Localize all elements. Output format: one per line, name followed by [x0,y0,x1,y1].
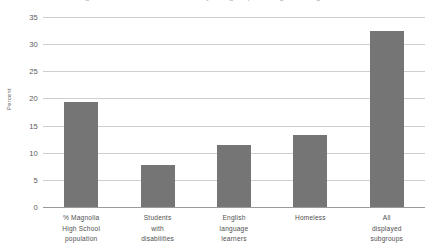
x-axis-category-labels: % MagnoliaHigh SchoolpopulationStudentsw… [43,213,425,251]
y-axis-tick-label: 15 [29,121,38,130]
y-axis-tick-label: 35 [29,13,38,22]
plot-area: 05101520253035 [43,17,425,207]
x-axis-category-label: Alldisplayedsubgroups [349,213,425,245]
category-label-line: Students [119,213,195,224]
category-label-line: learners [196,234,272,245]
x-axis-category-label: Homeless [272,213,348,224]
bar-slot [119,17,195,207]
bar-slot [349,17,425,207]
x-axis-baseline: 0 [43,207,425,208]
bars [43,17,425,207]
category-label-line: disabilities [119,234,195,245]
bar-chart: Figure 2. Percent of students by subgrou… [0,0,436,251]
y-axis-tick-label: 10 [29,148,38,157]
category-label-line: High School [43,224,119,235]
bar-slot [43,17,119,207]
y-axis-tick-label: 0 [34,203,38,212]
x-axis-category-label: % MagnoliaHigh Schoolpopulation [43,213,119,245]
x-axis-category-label: Englishlanguagelearners [196,213,272,245]
x-axis-category-label: Studentswithdisabilities [119,213,195,245]
category-label-line: % Magnolia [43,213,119,224]
bar[interactable] [370,31,404,207]
y-axis-tick-label: 5 [34,175,38,184]
category-label-line: subgroups [349,234,425,245]
y-axis-title: Percent [6,74,12,124]
bar[interactable] [293,135,327,207]
bar[interactable] [217,145,251,207]
category-label-line: English [196,213,272,224]
chart-title: Figure 2. Percent of students by subgrou… [0,0,436,3]
category-label-line: language [196,224,272,235]
category-label-line: All [349,213,425,224]
bar[interactable] [141,165,175,207]
bar[interactable] [64,102,98,207]
category-label-line: Homeless [272,213,348,224]
y-axis-tick-label: 30 [29,40,38,49]
y-axis-tick-label: 25 [29,67,38,76]
y-axis-tick-label: 20 [29,94,38,103]
category-label-line: population [43,234,119,245]
category-label-line: with [119,224,195,235]
bar-slot [196,17,272,207]
category-label-line: displayed [349,224,425,235]
bar-slot [272,17,348,207]
